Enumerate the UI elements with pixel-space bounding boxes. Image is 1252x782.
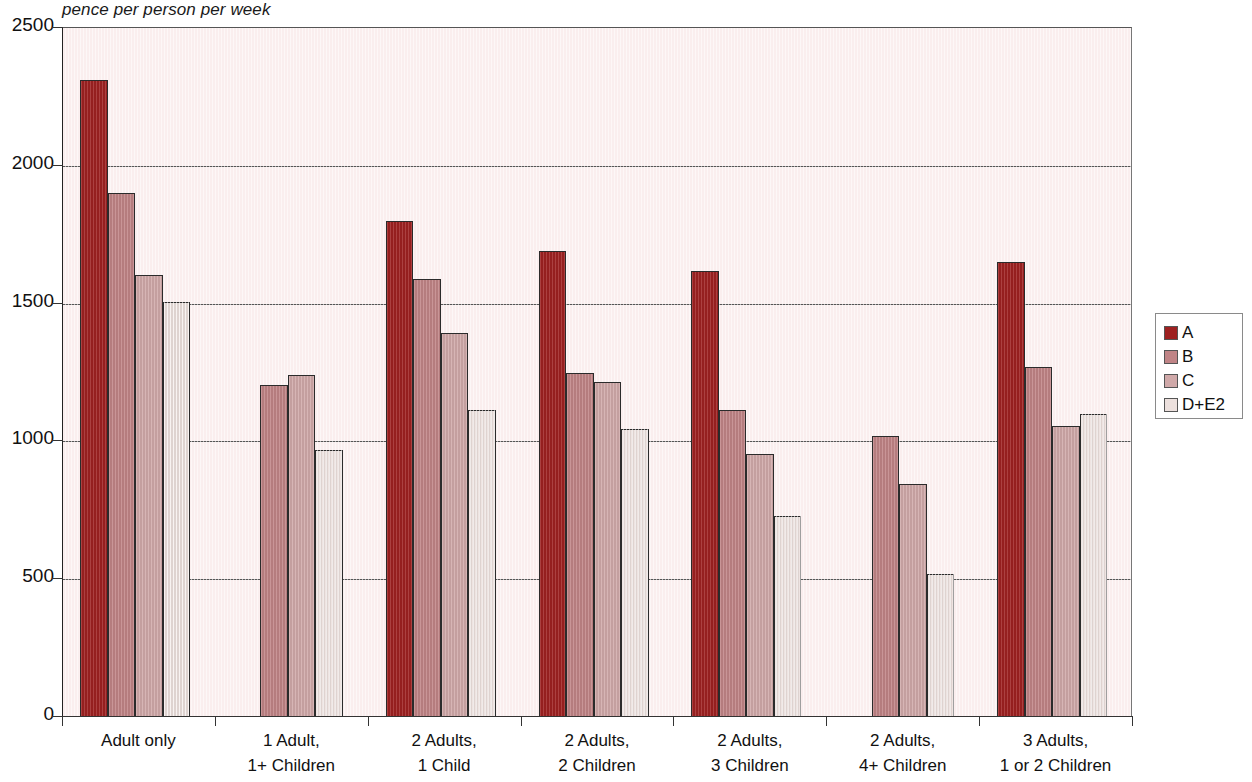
bar-b-3 [566,373,594,718]
bar-b-2 [413,279,441,717]
bar-texture [316,451,342,716]
bar-texture [692,272,718,716]
bar-chart: pence per person per week 05001000150020… [0,0,1252,782]
bar-b-1 [260,385,288,717]
x-category-label: 2 Adults, 3 Children [663,728,836,778]
y-tick-label: 2500 [12,14,54,36]
legend-swatch-icon [1164,398,1178,412]
bar-texture [1026,368,1052,716]
bar-dpluse2-4 [774,516,802,717]
bar-texture [442,334,468,716]
bar-texture [747,455,773,716]
plot-area [62,27,1132,716]
bar-dpluse2-0 [163,302,191,717]
bar-b-6 [1025,367,1053,717]
chart-legend: ABCD+E2 [1155,313,1243,419]
x-category-label: Adult only [52,728,225,753]
bar-texture [136,276,162,716]
x-tick-mark [368,717,369,726]
x-tick-mark [1132,717,1133,726]
y-tick-label: 1500 [12,290,54,312]
bar-b-5 [872,436,900,717]
bar-b-0 [108,193,136,717]
bar-a-6 [997,262,1025,717]
bar-texture [1053,427,1079,716]
bar-texture [164,303,190,716]
bar-texture [900,485,926,716]
y-axis-line [62,27,63,717]
chart-title: pence per person per week [62,0,271,20]
x-tick-mark [673,717,674,726]
bar-texture [261,386,287,716]
bar-c-2 [441,333,469,717]
x-category-label: 2 Adults, 4+ Children [816,728,989,778]
bar-texture [540,252,566,716]
legend-label: B [1182,347,1193,367]
x-tick-mark [521,717,522,726]
bar-texture [775,517,801,716]
bar-texture [81,81,107,716]
bar-c-5 [899,484,927,717]
bar-texture [567,374,593,717]
legend-swatch-icon [1164,326,1178,340]
bar-c-1 [288,375,316,717]
gridline [62,166,1131,167]
bar-texture [289,376,315,716]
y-tick-label: 2000 [12,152,54,174]
bar-texture [622,430,648,716]
x-tick-mark [826,717,827,726]
bar-b-4 [719,410,747,717]
bar-texture [1081,415,1107,716]
bar-texture [720,411,746,716]
bar-texture [928,575,954,716]
legend-swatch-icon [1164,350,1178,364]
legend-item-a[interactable]: A [1164,323,1193,343]
bar-dpluse2-1 [315,450,343,717]
bar-dpluse2-6 [1080,414,1108,717]
x-category-label: 2 Adults, 1 Child [358,728,531,778]
gridline [62,304,1131,305]
bar-a-4 [691,271,719,717]
y-tick-label: 1000 [12,427,54,449]
legend-label: D+E2 [1182,395,1225,415]
x-category-label: 3 Adults, 1 or 2 Children [969,728,1142,778]
y-tick-mark [52,27,63,28]
bar-texture [595,383,621,716]
bar-a-0 [80,80,108,717]
x-category-label: 1 Adult, 1+ Children [205,728,378,778]
bar-texture [469,411,495,716]
y-tick-mark [52,578,63,579]
y-tick-mark [52,440,63,441]
bar-a-2 [386,221,414,717]
x-category-label: 2 Adults, 2 Children [511,728,684,778]
x-tick-mark [62,717,63,726]
bar-dpluse2-2 [468,410,496,717]
legend-item-c[interactable]: C [1164,371,1194,391]
bar-texture [387,222,413,716]
y-tick-label: 0 [43,703,54,725]
bar-texture [109,194,135,716]
bar-c-4 [746,454,774,717]
y-tick-mark [52,716,63,717]
bar-texture [998,263,1024,716]
bar-texture [414,280,440,716]
bar-dpluse2-5 [927,574,955,717]
x-tick-mark [979,717,980,726]
legend-item-b[interactable]: B [1164,347,1193,367]
y-tick-label: 500 [22,565,54,587]
legend-label: A [1182,323,1193,343]
bar-c-3 [594,382,622,717]
legend-label: C [1182,371,1194,391]
x-axis-line [62,716,1133,717]
bar-c-0 [135,275,163,717]
y-tick-mark [52,165,63,166]
bar-a-3 [539,251,567,717]
bar-dpluse2-3 [621,429,649,717]
bar-texture [873,437,899,716]
legend-item-dpluse2[interactable]: D+E2 [1164,395,1225,415]
x-tick-mark [215,717,216,726]
legend-swatch-icon [1164,374,1178,388]
y-tick-mark [52,303,63,304]
bar-c-6 [1052,426,1080,717]
